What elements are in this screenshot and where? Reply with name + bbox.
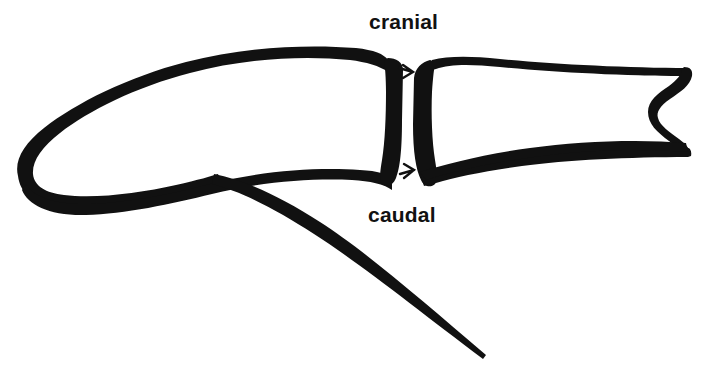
proximal-bone-segment	[17, 46, 388, 209]
caudal-process	[212, 174, 486, 359]
bone-diagram-svg	[0, 0, 704, 380]
label-cranial: cranial	[369, 11, 438, 32]
joint-block-distal	[413, 60, 437, 186]
joint-marker-bottom	[400, 164, 414, 178]
distal-bone-segment	[432, 57, 690, 76]
proximal-ventral-border	[22, 169, 392, 215]
label-caudal: caudal	[368, 204, 436, 225]
anatomical-figure: cranial caudal	[0, 0, 704, 380]
joint-block-proximal	[380, 58, 403, 186]
